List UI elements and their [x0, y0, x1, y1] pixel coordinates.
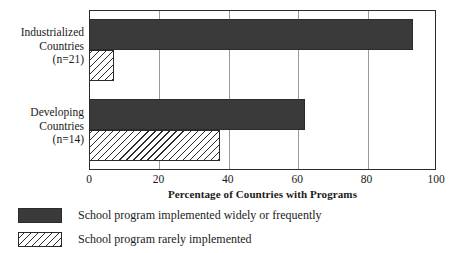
category-label-developing-line1: Developing	[0, 106, 84, 120]
hatch-pattern	[19, 233, 61, 246]
legend-item-implemented-widely: School program implemented widely or fre…	[18, 204, 438, 226]
x-tick-60: 60	[282, 173, 312, 186]
bar-chart-figure: Industrialized Countries (n=21) Developi…	[0, 0, 452, 253]
x-tick-0: 0	[74, 173, 104, 186]
x-tick-80: 80	[352, 173, 382, 186]
x-tick-20: 20	[143, 173, 173, 186]
category-label-developing-line2: Countries	[0, 120, 84, 134]
legend-label-implemented-widely: School program implemented widely or fre…	[78, 208, 322, 222]
x-tick-100: 100	[421, 173, 451, 186]
hatch-pattern	[90, 51, 113, 80]
plot-area	[89, 10, 436, 170]
bar-industrialized-rarely-implemented	[89, 50, 114, 81]
category-label-developing: Developing Countries (n=14)	[0, 106, 84, 147]
chart-legend: School program implemented widely or fre…	[18, 204, 438, 252]
hatch-pattern	[90, 131, 219, 160]
category-label-developing-line3: (n=14)	[0, 133, 84, 147]
hatched-swatch	[18, 232, 62, 247]
x-tick-40: 40	[213, 173, 243, 186]
legend-label-rarely-implemented: School program rarely implemented	[78, 232, 252, 246]
category-label-industrialized-line1: Industrialized	[0, 26, 84, 40]
x-axis-title: Percentage of Countries with Programs	[89, 188, 436, 200]
category-label-industrialized-line3: (n=21)	[0, 53, 84, 67]
bar-developing-rarely-implemented	[89, 130, 220, 161]
bar-developing-implemented-widely	[89, 99, 305, 130]
solid-dark-swatch	[18, 208, 62, 223]
bar-industrialized-implemented-widely	[89, 19, 413, 50]
category-label-industrialized: Industrialized Countries (n=21)	[0, 26, 84, 67]
legend-item-rarely-implemented: School program rarely implemented	[18, 228, 438, 250]
category-label-industrialized-line2: Countries	[0, 40, 84, 54]
